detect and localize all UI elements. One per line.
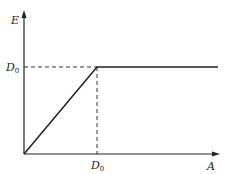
y-axis-label: E (10, 14, 19, 27)
x-axis-arrow-icon (212, 152, 220, 157)
y-tick-d0: D0 (5, 61, 19, 75)
x-axis-label: A (206, 160, 215, 173)
y-axis-arrow-icon (22, 10, 27, 18)
x-tick-d0: D0 (90, 159, 104, 173)
chart: E A D0 D0 (0, 0, 227, 174)
series-line (24, 67, 218, 154)
